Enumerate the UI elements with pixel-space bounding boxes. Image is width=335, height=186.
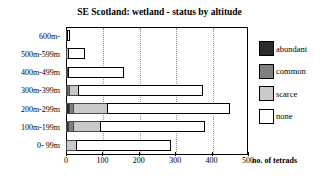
bar-segment-none [68,48,85,59]
legend-item-common[interactable]: common [259,64,333,79]
bar-row [66,82,248,100]
bar-row [66,118,248,136]
bar-row [66,100,248,118]
legend-swatch-scarce [259,86,274,101]
x-axis-tick-label: 300 [169,156,181,165]
bar-row [66,45,248,63]
x-axis-tick-label: 200 [133,156,145,165]
bar-rows [66,27,248,155]
stacked-bar[interactable] [66,67,125,78]
bar-segment-none [107,103,230,114]
chart-root: SE Scotland: wetland - status by altitud… [0,0,335,186]
legend-label: abundant [276,44,307,54]
y-axis-tick-label: 200m-299m [0,100,63,118]
bar-segment-none [78,85,203,96]
y-axis-tick-label: 600m- [0,27,63,45]
x-axis-title: no. of tetrads [252,156,297,165]
stacked-bar[interactable] [66,121,208,132]
x-axis-labels: 0100200300400500 [66,156,248,170]
bar-row [66,27,248,45]
legend-label: scarce [276,89,297,99]
bar-row [66,64,248,82]
y-axis-tick-label: 500m-599m [0,45,63,63]
legend-item-scarce[interactable]: scarce [259,86,333,101]
legend-item-abundant[interactable]: abundant [259,41,333,56]
stacked-bar[interactable] [66,140,172,151]
chart-title: SE Scotland: wetland - status by altitud… [62,7,257,17]
legend-swatch-none [259,109,274,124]
stacked-bar[interactable] [66,85,206,96]
legend-swatch-abundant [259,41,274,56]
legend-label: common [276,66,306,76]
bar-segment-none [67,30,70,41]
x-axis-tick-label: 0 [64,156,68,165]
x-axis-tick-label: 100 [96,156,108,165]
x-axis-tick-label: 400 [206,156,218,165]
y-axis-tick-label: 300m-399m [0,82,63,100]
legend-swatch-common [259,64,274,79]
bar-segment-scarce [73,103,108,114]
y-axis-tick-label: 400m-499m [0,64,63,82]
legend: abundantcommonscarcenone [259,41,333,131]
bar-segment-scarce [73,121,100,132]
stacked-bar[interactable] [66,103,233,114]
legend-label: none [276,111,293,121]
y-axis-tick-label: 0- 99m [0,137,63,155]
y-axis-labels: 600m-500m-599m400m-499m300m-399m200m-299… [0,27,63,155]
legend-item-none[interactable]: none [259,109,333,124]
stacked-bar[interactable] [66,48,86,59]
bar-row [66,137,248,155]
bar-segment-none [76,140,171,151]
y-axis-tick-label: 100m-199m [0,118,63,136]
bar-segment-none [100,121,205,132]
bar-segment-none [68,67,124,78]
stacked-bar[interactable] [66,30,70,41]
